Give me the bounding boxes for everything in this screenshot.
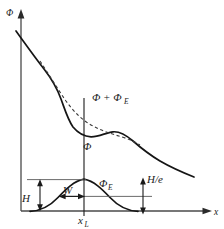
sum-potential-subscript: E bbox=[123, 97, 129, 106]
h-over-e-arrow-head-up bbox=[140, 177, 146, 184]
sum-potential-label: Φ + Φ bbox=[92, 91, 122, 103]
measurement-guides bbox=[27, 98, 152, 216]
x-axis-label: x bbox=[213, 207, 219, 217]
axes-group bbox=[18, 9, 212, 214]
gaussian-subscript: E bbox=[107, 183, 113, 192]
width-label: W bbox=[63, 184, 73, 196]
height-dimension-arrow bbox=[37, 179, 43, 211]
position-subscript: L bbox=[84, 220, 89, 229]
y-axis-arrowhead bbox=[18, 9, 25, 19]
h-over-e-label: H/e bbox=[146, 173, 163, 185]
y-axis-label: Φ bbox=[6, 8, 13, 18]
sum-potential-label-group: Φ + Φ E bbox=[92, 91, 129, 106]
position-label-group: x L bbox=[77, 214, 89, 228]
potential-diagram-svg: Φ x H W bbox=[0, 0, 224, 228]
solid-potential-curve bbox=[16, 31, 194, 177]
figure-container: Φ x H W bbox=[0, 0, 224, 228]
position-label: x bbox=[77, 214, 83, 226]
potential-label: Φ bbox=[83, 140, 92, 152]
h-over-e-dimension-arrow bbox=[140, 177, 146, 214]
x-axis-arrowhead bbox=[203, 208, 213, 215]
gaussian-label: Φ bbox=[99, 177, 108, 189]
height-label: H bbox=[21, 192, 31, 204]
height-arrow-head-up bbox=[37, 179, 43, 186]
